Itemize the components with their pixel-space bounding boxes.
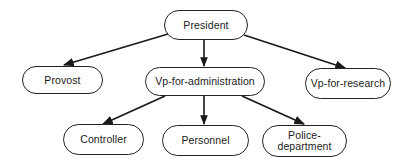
node-personnel: Personnel [162,125,249,156]
edge-president-vp-research [244,35,345,68]
node-police-department: Police- department [262,125,347,157]
edge-vp-admin-police [242,96,304,124]
node-vp-admin-label: Vp-for-administration [155,76,255,87]
node-personnel-label: Personnel [181,135,229,146]
node-vp-research-label: Vp-for-research [311,78,385,89]
node-president-label: President [183,20,228,31]
node-president: President [164,10,248,40]
node-vp-for-administration: Vp-for-administration [145,67,265,96]
edge-vp-admin-controller [103,96,165,124]
edge-president-provost [64,34,168,65]
node-controller-label: Controller [80,134,127,145]
node-vp-for-research: Vp-for-research [305,68,391,99]
node-controller: Controller [63,124,144,155]
node-provost-label: Provost [44,75,80,86]
node-police-label-line2: department [277,141,331,152]
node-provost: Provost [22,66,103,94]
org-chart-diagram: President Provost Vp-for-administration … [0,0,408,165]
